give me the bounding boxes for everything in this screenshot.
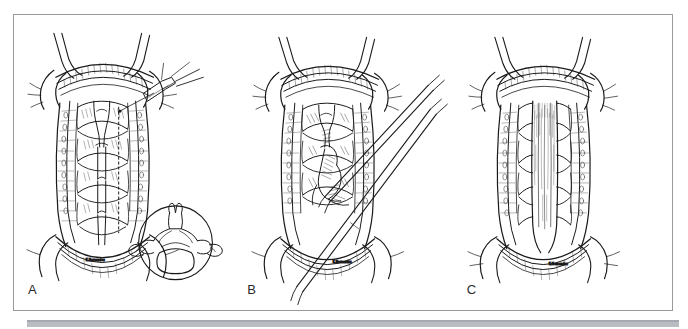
- panel-label-c: C: [467, 283, 477, 296]
- surgical-instrument-lower: [291, 99, 448, 304]
- paraspinal-muscle-left: [282, 103, 304, 249]
- panel-c-illustration: K.Hernandez: [453, 15, 672, 310]
- midline-graft-cover: [531, 101, 557, 253]
- laminae-stack: [77, 101, 129, 235]
- panel-label-b: B: [247, 283, 256, 296]
- inferior-fascial-band: [497, 239, 591, 280]
- retractor-right: [124, 33, 177, 109]
- figure-frame: K.Hernandez: [13, 14, 673, 311]
- artist-signature: K.Hernandez: [86, 258, 105, 262]
- retractor-right: [349, 37, 402, 111]
- panel-b: K.Hernandez B: [233, 15, 452, 310]
- superior-fascial-arch: [497, 65, 595, 97]
- surgical-instrument-upper: [319, 75, 445, 213]
- panel-a-illustration: K.Hernandez: [14, 15, 233, 310]
- artist-signature: K.Hernandez: [548, 262, 567, 266]
- superior-fascial-arch: [56, 63, 154, 95]
- laminae-stack: [302, 103, 354, 205]
- page-footer-rule-highlight: [27, 320, 679, 322]
- panel-a: K.Hernandez: [14, 15, 233, 310]
- figure-page: K.Hernandez: [0, 0, 688, 329]
- retractor-left: [253, 37, 307, 111]
- paraspinal-muscle-left: [56, 101, 78, 247]
- superior-fascial-arch: [281, 65, 379, 97]
- artist-signature: K.Hernandez: [333, 260, 352, 264]
- axial-vertebra-inset: [129, 203, 223, 279]
- panel-c: K.Hernandez C: [453, 15, 672, 310]
- panel-label-a: A: [28, 283, 37, 296]
- retractor-left: [469, 37, 523, 111]
- retractor-right: [564, 37, 617, 111]
- retractor-left: [28, 33, 82, 109]
- panel-row: K.Hernandez: [14, 15, 672, 310]
- paraspinal-muscle-left: [497, 103, 519, 249]
- paraspinal-muscle-right: [128, 101, 150, 247]
- spinous-process-chain: [82, 101, 124, 245]
- panel-b-illustration: K.Hernandez: [233, 15, 452, 310]
